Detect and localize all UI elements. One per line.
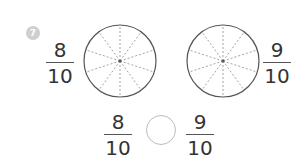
left-fraction-circle[interactable] — [84, 25, 156, 97]
compare-left-fraction: 8 10 — [104, 112, 132, 158]
numerator: 8 — [112, 112, 125, 132]
comparison-answer-circle[interactable] — [146, 115, 176, 145]
denominator: 10 — [105, 138, 130, 158]
denominator: 10 — [187, 138, 212, 158]
fraction-bar — [186, 134, 214, 135]
fraction-bar — [104, 134, 132, 135]
right-fraction-circle[interactable] — [187, 25, 259, 97]
compare-right-fraction: 9 10 — [186, 112, 214, 158]
numerator: 9 — [194, 112, 207, 132]
